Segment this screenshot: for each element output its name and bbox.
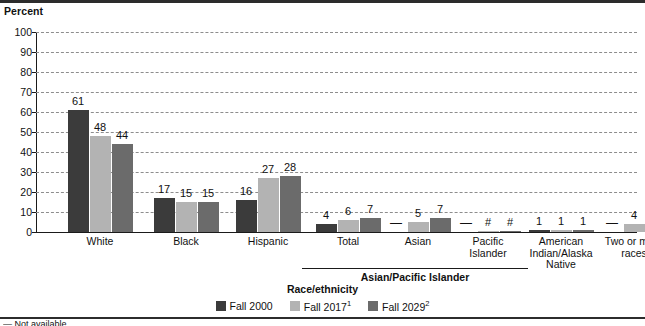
y-tick-label: 30 — [20, 167, 32, 178]
footnote-text: — Not available. — [3, 319, 69, 326]
bar-value-label: 44 — [106, 130, 139, 141]
y-tick-mark — [32, 32, 36, 33]
bar — [551, 230, 572, 232]
y-tick-mark — [32, 72, 36, 73]
y-tick-label: 20 — [20, 187, 32, 198]
gridline — [36, 32, 637, 33]
y-tick-label: 90 — [20, 47, 32, 58]
y-tick-mark — [32, 232, 36, 233]
y-tick-label: 40 — [20, 147, 32, 158]
group-bracket-label: Asian/Pacific Islander — [302, 271, 528, 283]
gridline — [36, 112, 637, 113]
bar-value-label: 15 — [192, 188, 225, 199]
bar — [408, 222, 429, 232]
bar — [198, 202, 219, 232]
bar — [90, 136, 111, 232]
legend-item[interactable]: Fall 2000 — [216, 300, 273, 312]
x-axis-line — [36, 232, 637, 233]
y-tick-label: 60 — [20, 107, 32, 118]
y-tick-mark — [32, 172, 36, 173]
gridline — [36, 72, 637, 73]
bar — [112, 144, 133, 232]
bar-value-label: 7 — [354, 204, 387, 215]
bar — [624, 224, 645, 232]
legend-item[interactable]: Fall 20171 — [290, 299, 351, 313]
bar — [500, 231, 521, 233]
x-axis-title: Race/ethnicity — [0, 283, 645, 295]
y-tick-mark — [32, 212, 36, 213]
legend-footnote-marker: 2 — [425, 299, 429, 308]
bar — [529, 230, 550, 232]
top-divider — [0, 0, 645, 3]
bar-value-label: 6 — [640, 206, 645, 217]
legend-footnote-marker: 1 — [347, 299, 351, 308]
legend-swatch — [290, 301, 300, 311]
y-axis-title: Percent — [4, 5, 43, 17]
y-tick-mark — [32, 92, 36, 93]
y-tick-label: 70 — [20, 87, 32, 98]
bar — [316, 224, 337, 232]
legend-swatch — [368, 301, 378, 311]
bar-value-label: 61 — [62, 96, 95, 107]
legend-label: Fall 2000 — [230, 300, 273, 312]
legend-label: Fall 20292 — [382, 299, 429, 313]
legend-label: Fall 20171 — [304, 299, 351, 313]
bar — [338, 220, 359, 232]
bar — [280, 176, 301, 232]
bar — [573, 230, 594, 232]
bar-value-label: 7 — [424, 204, 457, 215]
bar — [154, 198, 175, 232]
gridline — [36, 92, 637, 93]
y-tick-label: 80 — [20, 67, 32, 78]
legend-item[interactable]: Fall 20292 — [368, 299, 429, 313]
group-bracket-line — [302, 268, 528, 269]
y-tick-mark — [32, 52, 36, 53]
bar — [236, 200, 257, 232]
bar-value-label: 28 — [274, 162, 307, 173]
y-tick-label: 50 — [20, 127, 32, 138]
y-tick-mark — [32, 192, 36, 193]
y-tick-mark — [32, 112, 36, 113]
bar — [430, 218, 451, 232]
bar — [478, 231, 499, 233]
y-tick-label: 100 — [14, 27, 32, 38]
gridline — [36, 52, 637, 53]
bottom-divider — [0, 317, 645, 319]
category-label: Two or more races — [584, 236, 645, 259]
chart-root: Percent 1009080706050403020100 614844171… — [0, 0, 645, 326]
bar — [360, 218, 381, 232]
chart-legend: Fall 2000Fall 20171Fall 20292 — [0, 299, 645, 313]
y-tick-label: 10 — [20, 207, 32, 218]
y-tick-mark — [32, 152, 36, 153]
bar — [176, 202, 197, 232]
category-label: White — [50, 236, 150, 248]
legend-swatch — [216, 301, 226, 311]
y-tick-mark — [32, 132, 36, 133]
bar — [258, 178, 279, 232]
plot-area: 1009080706050403020100 61484417151516272… — [36, 32, 637, 232]
